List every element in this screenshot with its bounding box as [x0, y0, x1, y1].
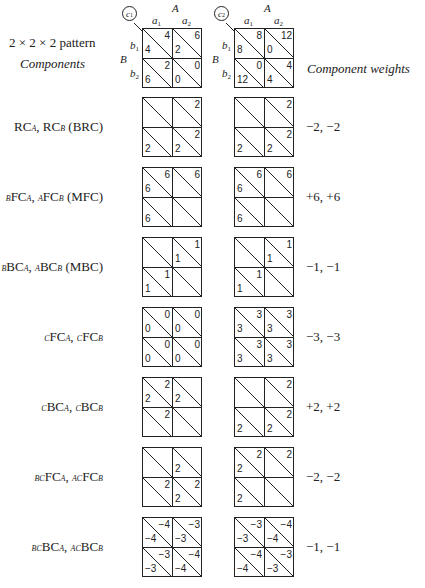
cell-value-lower: 12	[237, 75, 248, 85]
factor-a-label: A	[172, 2, 179, 14]
diagonal-line	[234, 377, 264, 407]
grid-cell: 00	[172, 58, 202, 88]
cell-value-lower: −3	[175, 534, 186, 544]
level-b2-label: b2	[130, 67, 139, 81]
grid-cell: 2	[234, 477, 264, 507]
cell-value-lower: 3	[237, 324, 243, 334]
grid-cell: 6	[234, 197, 264, 227]
grid-cell: 2	[172, 377, 202, 407]
grid-cell: 33	[234, 307, 264, 337]
diagonal-line	[234, 237, 264, 267]
level-b1-label: b1	[222, 39, 231, 53]
cell-value-upper: 2	[286, 450, 292, 460]
grid-cell: −3−3	[172, 517, 202, 547]
cell-value-upper: −4	[251, 550, 262, 560]
pattern-grid-c2: 8812001244	[234, 28, 294, 88]
cell-value-upper: 6	[164, 170, 170, 180]
cell-value-upper: 12	[281, 31, 292, 41]
cell-value-upper: 6	[286, 170, 292, 180]
grid-cell: 11	[264, 237, 294, 267]
pattern-grid-c1: 44622600	[142, 28, 202, 88]
cell-value-lower: 2	[237, 424, 243, 434]
cell-value-lower: 0	[145, 354, 151, 364]
cell-value-lower: −4	[175, 564, 186, 574]
grid-cell: −4−4	[234, 547, 264, 577]
grid-cell: 2	[142, 477, 172, 507]
component-weight: −2, −2	[306, 469, 340, 485]
grid-cell: 2	[264, 97, 294, 127]
cell-value-lower: 2	[237, 464, 243, 474]
grid-cell	[142, 237, 172, 267]
factor-a-label: A	[264, 2, 271, 14]
grid-cell: 2	[142, 407, 172, 437]
level-a2-label: a2	[182, 14, 191, 28]
grid-cell: 6	[142, 197, 172, 227]
pattern-grid-c1: 2222	[142, 97, 202, 157]
diagonal-line	[264, 477, 294, 507]
cell-value-lower: 2	[175, 45, 181, 55]
cell-value-upper: 3	[256, 340, 262, 350]
grid-cell	[172, 267, 202, 297]
cell-value-upper: 2	[164, 480, 170, 490]
grid-cell: 120	[264, 28, 294, 58]
cell-value-upper: −4	[281, 520, 292, 530]
grid-cell: 22	[172, 127, 202, 157]
grid-cell: 22	[264, 127, 294, 157]
grid-cell: 66	[234, 167, 264, 197]
grid-cell: −3−3	[234, 517, 264, 547]
cell-value-lower: −3	[145, 564, 156, 574]
pattern-grid-c1: 2222	[142, 447, 202, 507]
cell-value-lower: 4	[145, 45, 151, 55]
component-label: RCA, RCB (BRC)	[14, 119, 103, 135]
component-weight: −1, −1	[306, 259, 340, 275]
grid-cell: 11	[234, 267, 264, 297]
component-weight: −3, −3	[306, 329, 340, 345]
grid-cell	[264, 477, 294, 507]
grid-cell: 33	[234, 337, 264, 367]
grid-cell: 88	[234, 28, 264, 58]
cell-value-lower: 2	[175, 144, 181, 154]
component-label: BCBCA, ACBCB	[32, 539, 103, 555]
cell-value-upper: 2	[194, 100, 200, 110]
cell-value-lower: 0	[267, 45, 273, 55]
cell-value-lower: −3	[237, 534, 248, 544]
pattern-grid-c2: 2222	[234, 447, 294, 507]
cell-value-upper: 2	[164, 61, 170, 71]
cell-value-upper: −3	[159, 550, 170, 560]
cell-value-upper: −3	[189, 520, 200, 530]
cell-value-lower: 2	[175, 494, 181, 504]
cell-value-upper: −3	[251, 520, 262, 530]
level-a1-label: a1	[244, 14, 253, 28]
cell-value-lower: 2	[267, 424, 273, 434]
grid-cell: 2	[142, 127, 172, 157]
pattern-grid-c1: −4−4−3−3−3−3−4−4	[142, 517, 202, 577]
diagonal-line	[142, 447, 172, 477]
cell-value-lower: −4	[145, 534, 156, 544]
level-b2-label: b2	[222, 67, 231, 81]
cell-value-upper: −4	[159, 520, 170, 530]
cell-value-upper: 1	[194, 240, 200, 250]
grid-cell: 22	[142, 377, 172, 407]
cell-value-lower: 6	[145, 214, 151, 224]
cell-value-lower: 8	[237, 45, 243, 55]
pattern-grid-c2: 33333333	[234, 307, 294, 367]
pattern-title: 2 × 2 × 2 pattern	[9, 35, 96, 51]
grid-cell	[172, 407, 202, 437]
factor-b-label: B	[120, 53, 127, 65]
cell-value-upper: 2	[256, 450, 262, 460]
diagonal-line	[172, 197, 202, 227]
cell-value-lower: −4	[237, 564, 248, 574]
cell-value-lower: −4	[267, 534, 278, 544]
cell-value-upper: 3	[286, 310, 292, 320]
cell-value-upper: 8	[256, 31, 262, 41]
level-b1-label: b1	[130, 39, 139, 53]
cell-value-upper: 2	[286, 100, 292, 110]
cell-value-upper: 4	[286, 61, 292, 71]
cell-value-lower: 0	[145, 324, 151, 334]
component-weights-heading: Component weights	[307, 61, 410, 77]
component-label: CBCA, CBCB	[41, 399, 103, 415]
cell-value-lower: 2	[267, 144, 273, 154]
cell-value-upper: 0	[194, 340, 200, 350]
grid-cell: 00	[142, 337, 172, 367]
cell-value-upper: −4	[189, 550, 200, 560]
